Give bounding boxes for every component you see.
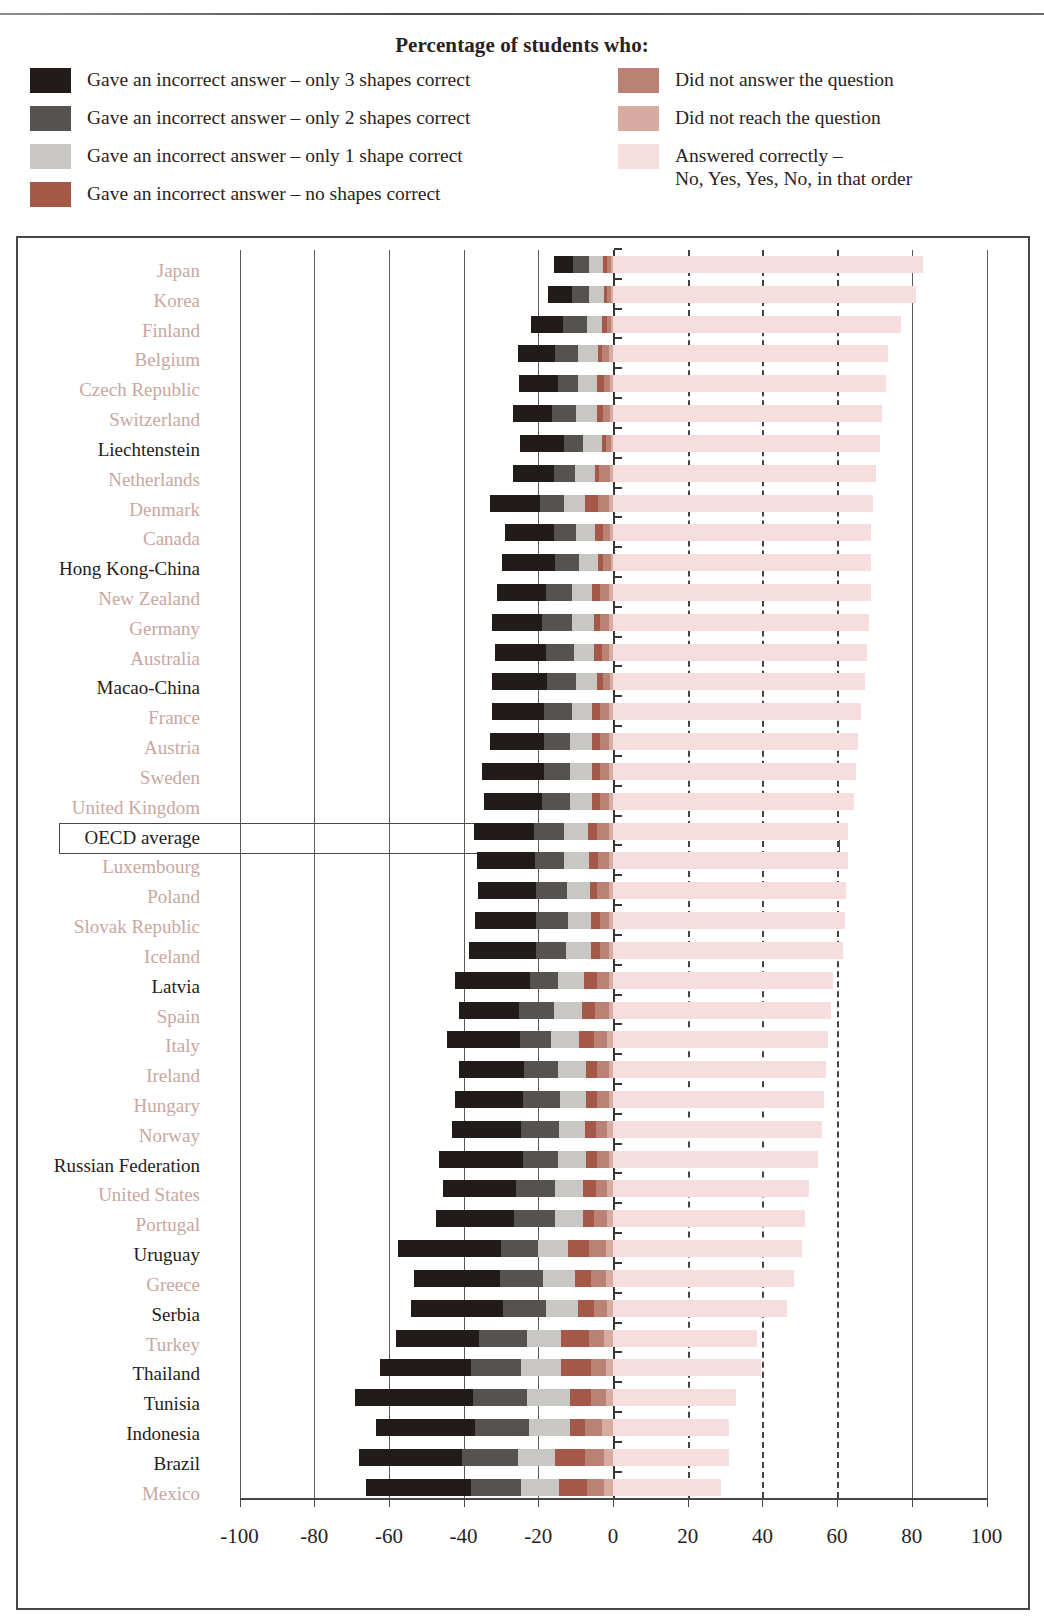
- bar-segment-only3: [518, 345, 555, 362]
- bar-segment-only3: [439, 1151, 523, 1168]
- bar-segment-correct: [613, 375, 886, 392]
- axis-tick-label-0: 0: [608, 1524, 619, 1549]
- zero-axis-minor-tick: [614, 1441, 622, 1443]
- bar-segment-only2: [554, 524, 576, 541]
- legend-title: Percentage of students who:: [0, 33, 1044, 58]
- bar-segment-no_answer: [597, 1151, 608, 1168]
- bar-segment-only3: [490, 733, 544, 750]
- bar-segment-none: [590, 882, 597, 899]
- bar-segment-only1: [543, 1270, 575, 1287]
- chart-row: Australia: [18, 644, 1032, 674]
- bar-segment-correct: [613, 1002, 831, 1019]
- bar-segment-not_reached: [606, 1240, 613, 1257]
- bar-segment-only2: [552, 405, 576, 422]
- country-label-finland: Finland: [142, 320, 200, 342]
- zero-axis-minor-tick: [614, 636, 622, 638]
- legend-swatch-none: [30, 182, 71, 207]
- bar-segment-only1: [558, 1151, 586, 1168]
- bar-segment-only3: [355, 1389, 473, 1406]
- bar-segment-only3: [495, 644, 545, 661]
- bar-segment-no_answer: [600, 793, 609, 810]
- bar-segment-only1: [587, 316, 602, 333]
- bar-segment-none: [595, 524, 602, 541]
- bar-segment-no_answer: [597, 972, 608, 989]
- country-label-uruguay: Uruguay: [134, 1244, 200, 1266]
- bar-segment-only2: [563, 316, 587, 333]
- bar-segment-none: [583, 1210, 594, 1227]
- bar-segment-no_answer: [597, 1061, 608, 1078]
- zero-axis-minor-tick: [614, 606, 622, 608]
- chart-row: France: [18, 703, 1032, 733]
- bar-segment-none: [592, 703, 599, 720]
- bar-segment-none: [586, 1151, 597, 1168]
- legend-swatch-correct: [618, 144, 659, 169]
- bar-segment-only1: [554, 1002, 582, 1019]
- zero-axis-minor-tick: [614, 785, 622, 787]
- country-label-thailand: Thailand: [132, 1363, 200, 1385]
- bar-segment-only2: [462, 1449, 518, 1466]
- zero-axis-minor-tick: [614, 308, 622, 310]
- bar-segment-only3: [366, 1479, 471, 1496]
- chart-row: Indonesia: [18, 1419, 1032, 1449]
- bar-segment-only2: [500, 1270, 543, 1287]
- country-label-oecd-average: OECD average: [84, 827, 200, 849]
- bar-segment-no_answer: [600, 584, 609, 601]
- bar-segment-no_answer: [600, 942, 609, 959]
- bar-segment-correct: [613, 644, 867, 661]
- bar-segment-only3: [505, 524, 554, 541]
- bar-segment-correct: [613, 1330, 757, 1347]
- bar-segment-only1: [555, 1180, 583, 1197]
- bar-segment-only3: [459, 1061, 524, 1078]
- chart-row: Latvia: [18, 972, 1032, 1002]
- bar-segment-none: [570, 1389, 591, 1406]
- bar-segment-no_answer: [600, 703, 609, 720]
- chart-row: Macao-China: [18, 673, 1032, 703]
- bar-segment-none: [589, 852, 598, 869]
- legend-column-right: Did not answer the questionDid not reach…: [618, 66, 1018, 197]
- country-label-liechtenstein: Liechtenstein: [98, 439, 200, 461]
- bar-segment-no_answer: [600, 912, 609, 929]
- country-label-greece: Greece: [146, 1274, 200, 1296]
- legend-item-not_reached: Did not reach the question: [618, 104, 1018, 135]
- bar-segment-only1: [521, 1359, 560, 1376]
- bar-segment-none: [585, 1121, 596, 1138]
- bar-segment-only1: [576, 673, 597, 690]
- zero-axis-minor-tick: [614, 367, 622, 369]
- bar-segment-correct: [613, 1270, 794, 1287]
- bar-segment-only1: [564, 823, 588, 840]
- bar-segment-no_answer: [585, 1419, 602, 1436]
- bar-segment-only1: [579, 554, 598, 571]
- country-label-serbia: Serbia: [151, 1304, 200, 1326]
- zero-axis-minor-tick: [614, 1262, 622, 1264]
- legend-label-only3: Gave an incorrect answer – only 3 shapes…: [87, 66, 470, 91]
- bar-segment-correct: [613, 554, 871, 571]
- bar-segment-only2: [546, 584, 572, 601]
- legend-item-none: Gave an incorrect answer – no shapes cor…: [30, 180, 590, 211]
- bar-segment-only1: [568, 912, 590, 929]
- zero-axis-minor-tick: [614, 576, 622, 578]
- legend-swatch-only2: [30, 106, 71, 131]
- chart-row: Mexico: [18, 1479, 1032, 1509]
- bar-segment-only3: [519, 375, 558, 392]
- chart-row: Korea: [18, 286, 1032, 316]
- legend-label-only2: Gave an incorrect answer – only 2 shapes…: [87, 104, 470, 129]
- country-label-new-zealand: New Zealand: [98, 588, 200, 610]
- country-label-macao-china: Macao-China: [97, 677, 200, 699]
- country-label-portugal: Portugal: [136, 1214, 200, 1236]
- chart-row: Spain: [18, 1002, 1032, 1032]
- bar-segment-only1: [551, 1031, 579, 1048]
- bar-segment-correct: [613, 495, 873, 512]
- bar-segment-no_answer: [600, 733, 609, 750]
- zero-axis-minor-tick: [614, 695, 622, 697]
- axis-tick-label-100: 100: [971, 1524, 1003, 1549]
- bar-segment-correct: [613, 435, 880, 452]
- legend-swatch-no_answer: [618, 68, 659, 93]
- zero-axis-minor-tick: [614, 994, 622, 996]
- chart-row: Uruguay: [18, 1240, 1032, 1270]
- bar-segment-only1: [521, 1479, 558, 1496]
- zero-axis-minor-tick: [614, 1351, 622, 1353]
- bar-segment-only2: [471, 1359, 521, 1376]
- chart-row: Japan: [18, 256, 1032, 286]
- bar-segment-none: [592, 793, 599, 810]
- bar-segment-none: [597, 375, 604, 392]
